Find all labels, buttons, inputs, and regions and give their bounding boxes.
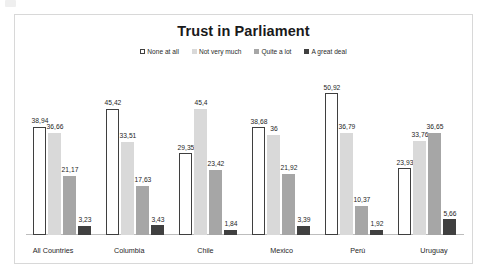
bar-value-label: 21,17: [62, 167, 79, 174]
plot-area: 38,9436,6621,173,2345,4233,5117,633,4329…: [26, 77, 464, 235]
chart-title: Trust in Parliament: [15, 23, 472, 39]
category-label: All Countries: [33, 246, 74, 255]
bar-value-label: 10,37: [354, 197, 371, 204]
bar-value-label: 36: [270, 126, 277, 133]
bar-value-label: 17,63: [135, 177, 152, 184]
bar-slot: 45,42: [106, 77, 119, 235]
bar-slot: 36: [267, 77, 280, 235]
bar[interactable]: [194, 109, 207, 235]
bar-value-label: 45,4: [194, 100, 207, 107]
legend-item[interactable]: None at all: [140, 48, 179, 55]
bar-slot: 45,4: [194, 77, 207, 235]
bar-value-label: 36,65: [427, 124, 444, 131]
bar-slot: 38,94: [33, 77, 46, 235]
bar[interactable]: [224, 230, 237, 235]
bar[interactable]: [282, 174, 295, 235]
bar-value-label: 33,51: [120, 133, 137, 140]
bar-slot: 36,65: [428, 77, 441, 235]
bar-slot: 10,37: [355, 77, 368, 235]
bar-slot: 21,92: [282, 77, 295, 235]
bar-group: 23,9333,7636,655,66: [391, 77, 464, 235]
legend-item[interactable]: Quite a lot: [254, 48, 291, 55]
bar[interactable]: [355, 206, 368, 235]
bar[interactable]: [78, 226, 91, 235]
bar-value-label: 50,92: [324, 85, 341, 92]
bar[interactable]: [106, 109, 119, 235]
bar-value-label: 29,35: [178, 145, 195, 152]
bar-slot: 36,79: [340, 77, 353, 235]
bar-slot: 17,63: [136, 77, 149, 235]
scan-smudge-artifact: [5, 0, 16, 7]
bar-value-label: 23,42: [208, 161, 225, 168]
bar[interactable]: [33, 127, 46, 235]
legend-swatch-icon: [254, 49, 259, 54]
bar[interactable]: [121, 142, 134, 235]
legend-swatch-icon: [192, 49, 197, 54]
bar-value-label: 36,79: [339, 124, 356, 131]
category-label: Columbia: [114, 246, 144, 255]
bar[interactable]: [48, 133, 61, 235]
legend-item-label: A great deal: [311, 48, 346, 55]
legend-item[interactable]: A great deal: [304, 48, 346, 55]
bar[interactable]: [151, 225, 164, 235]
legend-item-label: Not very much: [199, 48, 242, 55]
bar-slot: 1,92: [370, 77, 383, 235]
bar[interactable]: [325, 93, 338, 235]
legend-item[interactable]: Not very much: [192, 48, 242, 55]
bar-slot: 33,76: [413, 77, 426, 235]
bar-value-label: 3,43: [151, 217, 164, 224]
bar[interactable]: [136, 186, 149, 235]
bar-value-label: 3,23: [78, 217, 91, 224]
bar[interactable]: [297, 226, 310, 235]
bar-group: 29,3545,423,421,84: [172, 77, 245, 235]
legend-item-label: None at all: [147, 48, 179, 55]
bar[interactable]: [428, 133, 441, 235]
bar-value-label: 38,68: [251, 119, 268, 126]
bar-value-label: 5,66: [443, 211, 456, 218]
chart-legend: None at allNot very muchQuite a lotA gre…: [15, 48, 472, 55]
bar-value-label: 33,76: [412, 132, 429, 139]
bar[interactable]: [267, 135, 280, 235]
legend-swatch-icon: [140, 49, 145, 54]
bar[interactable]: [443, 219, 456, 235]
bar[interactable]: [340, 133, 353, 235]
bar-slot: 33,51: [121, 77, 134, 235]
bar-slot: 38,68: [252, 77, 265, 235]
bar-value-label: 3,39: [297, 217, 310, 224]
bar-group: 45,4233,5117,633,43: [99, 77, 172, 235]
bar-group: 38,9436,6621,173,23: [26, 77, 99, 235]
bar-slot: 21,17: [63, 77, 76, 235]
bar-value-label: 36,66: [47, 124, 64, 131]
bar-slot: 3,43: [151, 77, 164, 235]
bar-group: 50,9236,7910,371,92: [318, 77, 391, 235]
category-label: Uruguay: [420, 246, 447, 255]
bar[interactable]: [413, 141, 426, 235]
bar-slot: 23,93: [398, 77, 411, 235]
bar-value-label: 1,84: [224, 221, 237, 228]
bar-slot: 23,42: [209, 77, 222, 235]
legend-swatch-icon: [304, 49, 309, 54]
bar[interactable]: [63, 176, 76, 235]
category-label: Perú: [350, 246, 365, 255]
bar-slot: 3,23: [78, 77, 91, 235]
category-label: Mexico: [270, 246, 293, 255]
bar-slot: 36,66: [48, 77, 61, 235]
bar[interactable]: [398, 168, 411, 235]
bar-group: 38,683621,923,39: [245, 77, 318, 235]
bar[interactable]: [252, 127, 265, 235]
bar[interactable]: [370, 230, 383, 235]
bar-value-label: 1,92: [370, 221, 383, 228]
bar-slot: 50,92: [325, 77, 338, 235]
bar-slot: 3,39: [297, 77, 310, 235]
bar[interactable]: [179, 153, 192, 235]
chart-container: Trust in Parliament None at allNot very …: [14, 14, 473, 264]
bar-value-label: 21,92: [281, 165, 298, 172]
bar-value-label: 23,93: [397, 160, 414, 167]
bar-slot: 5,66: [443, 77, 456, 235]
bar[interactable]: [209, 170, 222, 235]
bar-value-label: 45,42: [105, 100, 122, 107]
legend-item-label: Quite a lot: [261, 48, 291, 55]
bar-slot: 1,84: [224, 77, 237, 235]
bar-slot: 29,35: [179, 77, 192, 235]
category-label: Chile: [197, 246, 213, 255]
